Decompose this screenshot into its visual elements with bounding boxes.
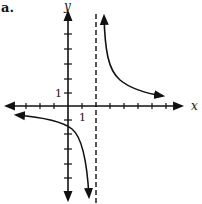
x-tick-label: 1 — [79, 111, 86, 124]
y-tick-label: 1 — [55, 87, 62, 100]
x-axis — [6, 103, 182, 109]
x-axis-label: x — [191, 99, 198, 113]
y-axis-label: y — [63, 0, 71, 13]
curve-left-branch — [16, 115, 89, 197]
graph: y x 1 1 — [0, 0, 202, 204]
curve-right-branch — [104, 16, 163, 96]
